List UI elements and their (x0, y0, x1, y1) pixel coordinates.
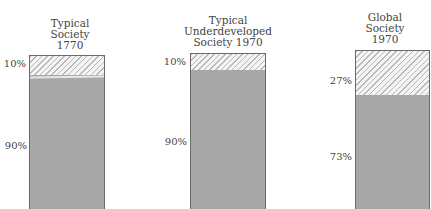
bar-2-top-label: 10% (158, 56, 186, 67)
bar-1-top-label: 10% (0, 58, 26, 69)
bar-1-title-line-3: 1770 (35, 40, 105, 51)
bar-3-top-label: 27% (322, 75, 352, 86)
bar-2-hatched-segment (191, 54, 265, 70)
bar-typical-society-1770 (29, 55, 105, 209)
bar-2-solid-segment (191, 70, 265, 209)
bar-3-title-line-3: 1970 (350, 34, 420, 45)
bar-3-title: Global Society 1970 (350, 12, 420, 45)
bar-2-title: Typical Underdeveloped Society 1970 (178, 15, 278, 48)
bar-1-title: Typical Society 1770 (35, 18, 105, 51)
bar-1-solid-segment (30, 75, 104, 209)
bar-3-bottom-label: 73% (322, 151, 352, 162)
bar-typical-underdeveloped-society-1970 (190, 53, 266, 209)
bar-1-bottom-label: 90% (0, 140, 27, 151)
bar-2-title-line-3: Society 1970 (178, 37, 278, 48)
bar-1-hatched-segment (30, 56, 104, 75)
bar-3-hatched-segment (356, 51, 429, 95)
bar-2-bottom-label: 90% (158, 136, 187, 147)
bar-global-society-1970 (355, 50, 430, 209)
bar-3-solid-segment (356, 95, 429, 209)
